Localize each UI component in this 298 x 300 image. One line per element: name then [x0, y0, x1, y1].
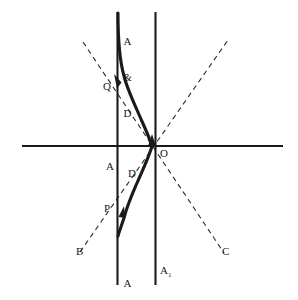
label-point-O: O [160, 148, 168, 159]
dashed-line-Q-C [83, 42, 224, 253]
label-mid-A: A [106, 161, 114, 172]
label-A1-base: A [160, 264, 168, 276]
label-point-C: C [222, 246, 229, 257]
label-mid-D: D [128, 168, 136, 179]
label-A1-subscript: 1 [168, 271, 172, 279]
label-top-ampersand: & [122, 71, 133, 83]
arrowhead-P [119, 206, 126, 218]
label-bottom-line-A1: A1 [160, 265, 171, 281]
label-top-D: D [122, 107, 133, 119]
label-point-Q: Q [103, 81, 111, 92]
label-bottom-line-A-and-D: A & D [122, 253, 133, 300]
label-bottom-A: A [122, 277, 133, 289]
label-top-line-A-and-D: A & D [122, 11, 133, 143]
label-point-B: B [76, 246, 83, 257]
figure-svg [0, 0, 298, 300]
diagram-canvas: A & D A & D A1 O Q P B C A D [0, 0, 298, 300]
label-top-A: A [122, 35, 133, 47]
label-point-P: P [104, 203, 110, 214]
